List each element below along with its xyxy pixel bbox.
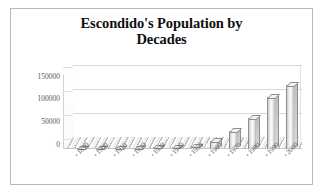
bar-2000[interactable] [286,85,295,149]
screenshot-root: Escondido's Population by Decades 150000… [0,0,323,196]
y-tick-0: 0 [56,141,60,149]
chart-title-line-1: Escondido's Population by [81,15,243,31]
y-tick-150000: 150000 [38,73,61,81]
chart-title-line-2: Decades [11,31,312,47]
chart-frame: Escondido's Population by Decades 150000… [10,8,313,185]
x-axis-labels: • 1890• 1900• 1910• 1920• 1930• 1940• 19… [63,153,308,185]
chart-title: Escondido's Population by Decades [11,15,312,47]
y-axis-labels: 150000 100000 50000 0 [11,65,63,155]
plot-area: 150000 100000 50000 0 [11,65,313,185]
y-tick-50000: 50000 [41,118,60,126]
y-tick-100000: 100000 [38,95,61,103]
